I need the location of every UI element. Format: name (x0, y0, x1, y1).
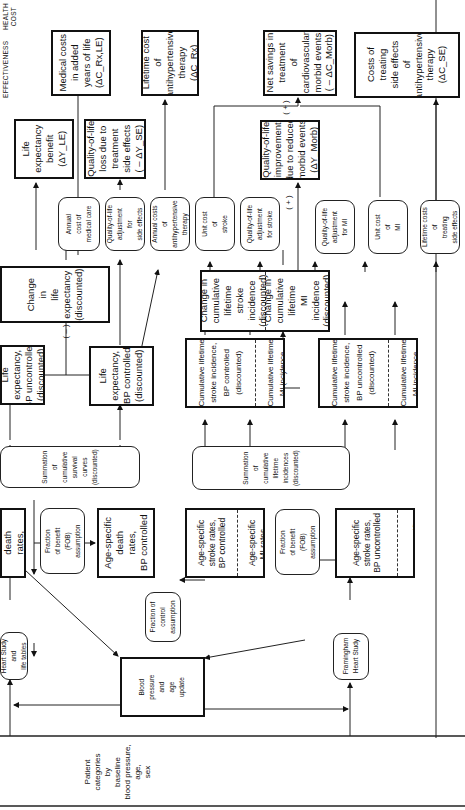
minus-sign-life-expectancy: ( – ) (61, 324, 70, 338)
annual-cost-medical-care-box: Annual cost of medical care (58, 197, 100, 251)
change-mi-cell: Change in cumulative lifetime MI inciden… (266, 272, 329, 330)
cum-stroke-uncontrolled-cell: Cumulative lifetime stroke incidence, BP… (320, 340, 389, 406)
death-rates-controlled-box: Age-specific death rates, BP controlled (97, 508, 155, 578)
qol-loss-side-effects-box: Quality-of-life loss due to treatment si… (84, 119, 146, 179)
lifetime-costs-side-effects-box: Lifetime costs of treating side effects (420, 200, 460, 254)
plus-sign-savings: ( + ) (281, 100, 290, 114)
header-effectiveness: EFFECTIVENESS (2, 41, 10, 98)
bp-age-update-box: Blood pressure and age update (120, 657, 205, 717)
qol-adjustment-stroke-box: Quality-of-life adjustment for stroke (240, 197, 280, 251)
stroke-rates-controlled-cell: Age-specific stroke rates, BP controlled (187, 510, 238, 576)
change-incidence-box: Change in cumulative lifetime stroke inc… (200, 270, 330, 332)
rates-controlled-box: Age-specific stroke rates, BP controlled… (185, 508, 265, 578)
fraction-benefit-top-box: Fraction of benefit (FOB) assumption (40, 508, 85, 574)
mi-rates-controlled-cell: Age-specific MI rates, BP controlled (238, 510, 265, 576)
qol-improvement-morbid-box: Quality-of-life improvement due to reduc… (260, 120, 320, 180)
life-exp-controlled-box: Life expectancy, BP controlled (discount… (89, 346, 154, 406)
unit-cost-mi-box: Unit cost of MI (368, 200, 408, 254)
change-stroke-cell: Change in cumulative lifetime stroke inc… (202, 272, 266, 330)
heart-study-life-tables-box: Heart Study and life tables (0, 632, 28, 680)
framingham-box: Framingham Heart Study (333, 633, 369, 680)
header-health-cost: HEALTH COST (2, 3, 19, 30)
annual-costs-therapy-box: Annual costs of antihypertensive therapy (150, 197, 190, 251)
cum-mi-uncontrolled-cell: Cumulative lifetime MI incidence, BP unc… (389, 340, 418, 406)
lifetime-cost-therapy-box: Lifetime cost of antihypertensive therap… (141, 30, 199, 96)
life-exp-uncontrolled-box: Life expectancy, BP uncontrolled (discou… (0, 345, 45, 405)
unit-cost-stroke-box: Unit cost of stroke (195, 197, 235, 251)
flow-diagram: EFFECTIVENESS HEALTH COST ( – ) ( – ) ( … (0, 0, 465, 810)
qol-adjustment-mi-box: Quality-of-life adjustment for MI (315, 200, 355, 254)
costs-side-effects-box: Costs of treating side effects of antihy… (354, 32, 460, 98)
death-rates-uncontrolled-box: Age-specific death rates, BP uncontrolle… (0, 508, 26, 578)
life-expectancy-benefit-box: Life expectancy benefit (ΔY_LE) (14, 119, 74, 179)
cum-incidence-controlled-box: Cumulative lifetime stroke incidence, BP… (185, 338, 285, 408)
net-savings-morbid-box: Net savings in treatment of cardiovascul… (263, 30, 337, 96)
rates-uncontrolled-box: Age-specific stroke rates, BP uncontroll… (335, 508, 415, 578)
fraction-control-box: Fraction of control assumption (145, 592, 181, 642)
qol-adjustment-side-effects-box: Quality-of-life adjustment for side effe… (105, 197, 145, 251)
change-life-expectancy-box: Change in life expectancy (discounted) (0, 266, 110, 323)
cum-mi-controlled-cell: Cumulative lifetime MI incidence, BP con… (256, 340, 285, 406)
fraction-benefit-bottom-box: Fraction of benefit (FOB) assumption (275, 509, 320, 575)
cum-incidence-uncontrolled-box: Cumulative lifetime stroke incidence, BP… (318, 338, 418, 408)
summation-incidence-box: Summation of cumulative lifetime inciden… (192, 446, 350, 490)
stroke-rates-uncontrolled-cell: Age-specific stroke rates, BP uncontroll… (337, 510, 398, 576)
mi-rates-uncontrolled-cell: Age-specific MI rates, BP uncontrolled (398, 510, 415, 576)
summation-survival-box: Summation of cumulative survival curves … (0, 446, 140, 488)
plus-sign-qol: ( + ) (284, 195, 293, 209)
cum-stroke-controlled-cell: Cumulative lifetime stroke incidence, BP… (187, 340, 256, 406)
patient-categories-box: Patient categories by baseline blood pre… (0, 738, 465, 805)
medical-costs-added-years-box: Medical costs in added years of life (ΔC… (51, 30, 111, 96)
